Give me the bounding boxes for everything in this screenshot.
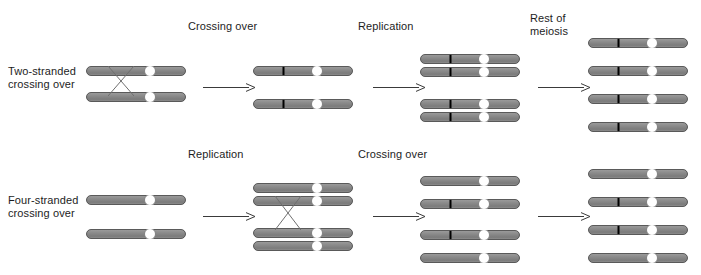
chromosome-r2c1-s2 <box>86 225 186 235</box>
stage-label-row1-rest-of-meiosis: Rest of meiosis <box>530 12 568 37</box>
chromosome-r2c2-s4 <box>253 237 353 247</box>
chromosome-r2c4-s2 <box>588 193 688 203</box>
chromosome-r2c1-s1 <box>86 191 186 201</box>
chromosome-r2c3-s1 <box>420 172 520 182</box>
chromosome-r2c3-s4 <box>420 249 520 259</box>
chromosome-r1c4-s1 <box>588 34 688 44</box>
chromosome-r1c2-s1 <box>253 62 353 72</box>
chromosome-r1c4-s3 <box>588 90 688 100</box>
process-arrow-row1-arrow-2 <box>373 79 425 90</box>
process-arrow-row1-arrow-1 <box>203 79 255 90</box>
chromosome-r1c4-s2 <box>588 62 688 72</box>
chromosome-r2c4-s4 <box>588 249 688 259</box>
crossover-x-r2c2-crossover <box>275 196 301 234</box>
process-arrow-row2-arrow-2 <box>373 208 425 219</box>
process-arrow-row1-arrow-3 <box>538 79 590 90</box>
chromosome-r1c3-s1 <box>420 50 520 60</box>
chromosome-r1c2-s2 <box>253 95 353 105</box>
chromosome-r2c4-s3 <box>588 221 688 231</box>
chromosome-r1c1-s1 <box>86 62 186 72</box>
chromosome-r2c3-s3 <box>420 226 520 236</box>
meiosis-crossing-over-diagram: Crossing overReplicationRest of meiosisR… <box>0 0 701 275</box>
stage-label-row2-replication: Replication <box>188 148 244 161</box>
chromosome-r1c1-s2 <box>86 88 186 98</box>
crossover-x-r1c1-crossover <box>108 66 134 100</box>
chromosome-r2c3-s2 <box>420 195 520 205</box>
stage-label-row1-replication: Replication <box>358 20 414 33</box>
chromosome-r2c2-s3 <box>253 224 353 234</box>
row-label-two-stranded: Two-stranded crossing over <box>8 65 76 91</box>
chromosome-r2c2-s1 <box>253 179 353 189</box>
chromosome-r2c2-s2 <box>253 192 353 202</box>
row-label-four-stranded: Four-stranded crossing over <box>8 194 78 220</box>
chromosome-r2c4-s1 <box>588 165 688 175</box>
stage-label-row2-crossing-over: Crossing over <box>358 148 427 161</box>
process-arrow-row2-arrow-3 <box>538 208 590 219</box>
chromosome-r1c3-s4 <box>420 108 520 118</box>
chromosome-r1c4-s4 <box>588 118 688 128</box>
chromosome-r1c3-s3 <box>420 95 520 105</box>
stage-label-row1-crossing-over: Crossing over <box>188 20 257 33</box>
chromosome-r1c3-s2 <box>420 63 520 73</box>
process-arrow-row2-arrow-1 <box>203 208 255 219</box>
